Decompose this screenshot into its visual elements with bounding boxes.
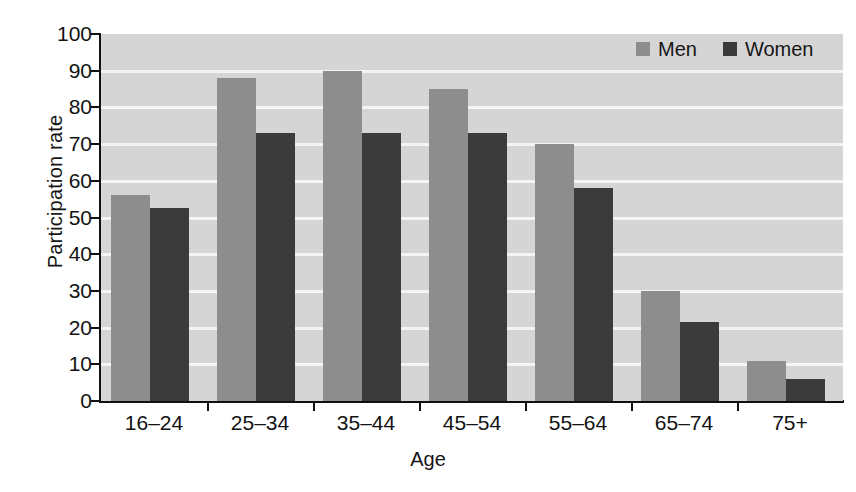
bar-men-75+ — [747, 361, 786, 401]
bar-men-35-44 — [323, 71, 362, 401]
x-tick-mark — [207, 402, 209, 411]
bar-men-16-24 — [111, 195, 150, 401]
legend-item-women: Women — [723, 39, 814, 59]
bar-men-55-64 — [535, 144, 574, 401]
y-tick-label: 40 — [4, 243, 92, 264]
y-tick-mark — [91, 290, 100, 292]
bar-women-75+ — [786, 379, 825, 401]
y-tick-mark — [91, 363, 100, 365]
y-tick-label: 80 — [4, 96, 92, 117]
x-tick-mark — [525, 402, 527, 411]
bar-women-55-64 — [574, 188, 613, 401]
x-tick-label: 25–34 — [200, 412, 320, 433]
y-axis-tick-labels: 0102030405060708090100 — [0, 0, 92, 492]
gridline — [101, 106, 843, 109]
x-tick-label: 35–44 — [306, 412, 426, 433]
y-tick-mark — [91, 143, 100, 145]
bar-women-45-54 — [468, 133, 507, 401]
y-tick-mark — [91, 217, 100, 219]
y-tick-mark — [91, 253, 100, 255]
x-tick-mark — [419, 402, 421, 411]
legend-swatch-icon — [723, 42, 737, 56]
y-tick-label: 50 — [4, 207, 92, 228]
legend-swatch-icon — [636, 42, 650, 56]
legend-item-men: Men — [636, 39, 697, 59]
x-tick-mark — [737, 402, 739, 411]
x-tick-label: 45–54 — [412, 412, 532, 433]
y-tick-label: 70 — [4, 133, 92, 154]
y-tick-mark — [91, 400, 100, 402]
plot-area — [101, 34, 843, 401]
bar-chart-figure: Participation rate 010203040506070809010… — [0, 0, 856, 492]
y-tick-label: 20 — [4, 317, 92, 338]
bar-women-35-44 — [362, 133, 401, 401]
y-tick-mark — [91, 327, 100, 329]
y-tick-label: 90 — [4, 60, 92, 81]
x-tick-label: 16–24 — [94, 412, 214, 433]
y-tick-label: 10 — [4, 353, 92, 374]
y-tick-mark — [91, 33, 100, 35]
x-axis-title: Age — [0, 448, 856, 471]
bar-men-25-34 — [217, 78, 256, 401]
x-tick-mark — [313, 402, 315, 411]
legend: MenWomen — [636, 38, 813, 60]
bar-women-25-34 — [256, 133, 295, 401]
x-tick-mark — [631, 402, 633, 411]
y-tick-mark — [91, 180, 100, 182]
y-tick-label: 100 — [4, 23, 92, 44]
x-tick-label: 55–64 — [518, 412, 638, 433]
bar-men-45-54 — [429, 89, 468, 401]
bar-men-65-74 — [641, 291, 680, 401]
y-tick-mark — [91, 70, 100, 72]
x-tick-label: 75+ — [730, 412, 850, 433]
bar-women-65-74 — [680, 322, 719, 401]
y-tick-label: 0 — [4, 390, 92, 411]
legend-label: Men — [658, 39, 697, 59]
gridline — [101, 70, 843, 73]
legend-label: Women — [745, 39, 814, 59]
bar-women-16-24 — [150, 208, 189, 401]
x-tick-label: 65–74 — [624, 412, 744, 433]
y-tick-label: 60 — [4, 170, 92, 191]
y-tick-mark — [91, 106, 100, 108]
y-tick-label: 30 — [4, 280, 92, 301]
